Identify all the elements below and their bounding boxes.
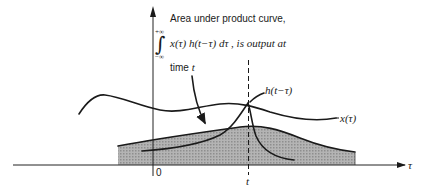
h-curve-label: h(t−τ) <box>265 84 293 97</box>
annotation-formula: x(τ) h(t−τ) dτ , is output at <box>169 37 287 50</box>
annotation-line1: Area under product curve, <box>170 13 286 24</box>
x-tau-curve <box>79 95 336 120</box>
annotation-line3: time t <box>170 61 196 73</box>
convolution-diagram: Area under product curve, +∞ ∫ −∞ x(τ) h… <box>0 0 421 191</box>
x-curve-label: x(τ) <box>339 112 356 125</box>
time-variable: t <box>192 61 196 73</box>
formula-text: x(τ) h(t−τ) dτ , is output at <box>169 37 287 50</box>
area-pointer-arrow <box>192 76 205 123</box>
tau-axis-label: τ <box>408 159 413 171</box>
h-label-pointer <box>250 93 264 102</box>
product-area-shading <box>118 126 355 165</box>
vertical-axis-arrow-icon <box>150 6 156 17</box>
integral-lower-limit: −∞ <box>155 53 164 61</box>
t-marker-label: t <box>246 175 250 187</box>
tau-axis-arrow-icon <box>397 162 406 168</box>
origin-label: 0 <box>156 167 162 178</box>
time-word: time <box>170 62 192 73</box>
